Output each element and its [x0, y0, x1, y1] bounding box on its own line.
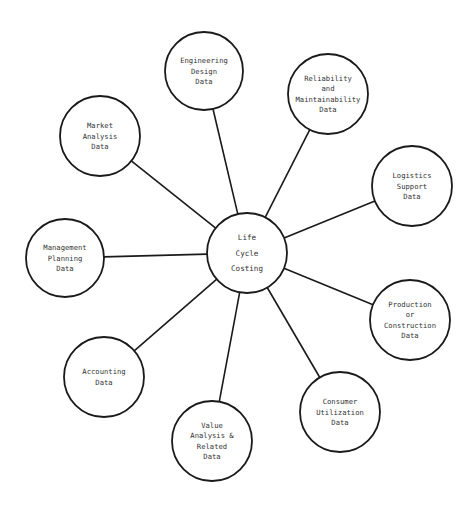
node-accounting-data: AccountingData [64, 337, 144, 417]
node-logistics-support-data: LogisticsSupportData [372, 146, 452, 226]
node-label-line: Reliability [304, 74, 352, 83]
node-label-line: Analysis & [190, 431, 234, 440]
node-production-construction-data: ProductionorConstructionData [370, 280, 450, 360]
node-label-line: Life [238, 233, 257, 242]
nodes: LifeCycleCostingEngineeringDesignDataRel… [26, 32, 452, 481]
edge-management-planning-data [104, 254, 207, 257]
node-management-planning-data: ManagementPlanningData [26, 219, 104, 297]
node-label-line: Logistics [393, 171, 432, 180]
node-label-line: Management [43, 243, 86, 252]
edge-production-construction-data [284, 268, 373, 305]
node-label-line: and [322, 84, 335, 93]
node-label-line: Data [91, 142, 108, 151]
edge-consumer-utilization-data [267, 288, 320, 378]
edge-market-analysis-data [131, 161, 215, 228]
node-value-analysis-related-data: ValueAnalysis &RelatedData [172, 401, 252, 481]
node-engineering-design-data: EngineeringDesignData [165, 32, 243, 110]
node-label-line: Support [397, 182, 427, 191]
node-label-line: Value [201, 421, 223, 430]
node-market-analysis-data: MarketAnalysisData [60, 96, 140, 176]
node-label-line: Accounting [82, 367, 125, 376]
node-label-line: Related [197, 442, 227, 451]
node-label-line: Consumer [323, 397, 358, 406]
node-label-line: Production [388, 300, 431, 309]
node-label-line: Data [95, 378, 112, 387]
node-label-line: Market [87, 121, 113, 130]
node-label-line: Data [331, 418, 348, 427]
node-consumer-utilization-data: ConsumerUtilizationData [300, 372, 380, 452]
edge-value-analysis-related-data [219, 292, 239, 401]
node-label-line: Planning [48, 254, 83, 263]
node-reliability-maintainability-data: ReliabilityandMaintainabilityData [288, 54, 368, 134]
edge-engineering-design-data [213, 109, 238, 214]
node-label-line: Data [195, 77, 212, 86]
node-label-line: Analysis [83, 132, 118, 141]
node-label-line: Costing [231, 264, 263, 273]
life-cycle-costing-diagram: LifeCycleCostingEngineeringDesignDataRel… [0, 0, 476, 506]
node-label-line: Utilization [316, 408, 364, 417]
edge-accounting-data [134, 279, 217, 351]
edge-reliability-maintainability-data [265, 130, 310, 218]
node-life-cycle-costing: LifeCycleCosting [207, 213, 287, 293]
node-label-line: Cycle [236, 249, 259, 258]
node-label-line: Data [403, 192, 420, 201]
node-label-line: Data [56, 264, 73, 273]
node-label-line: Construction [384, 321, 436, 330]
node-label-line: Data [203, 452, 220, 461]
node-label-line: or [406, 310, 415, 319]
node-label-line: Maintainability [296, 95, 362, 104]
node-label-line: Engineering [180, 56, 228, 65]
node-label-line: Data [401, 331, 418, 340]
edge-logistics-support-data [284, 201, 375, 238]
node-label-line: Design [191, 67, 217, 76]
node-circle [64, 337, 144, 417]
node-label-line: Data [319, 105, 336, 114]
